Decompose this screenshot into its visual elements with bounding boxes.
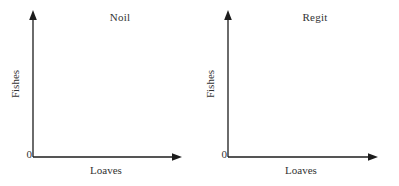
origin-label-noil: 0 bbox=[20, 148, 32, 160]
figure-container: Noil 0 Fishes Loaves Regit 0 Fishes Loav… bbox=[0, 0, 399, 186]
y-axis-arrow-icon bbox=[224, 10, 232, 20]
y-axis-label-noil: Fishes bbox=[9, 56, 21, 112]
x-axis-arrow-icon bbox=[172, 153, 182, 161]
y-axis-label-regit: Fishes bbox=[204, 56, 216, 112]
x-axis-label-regit: Loaves bbox=[245, 164, 357, 177]
chart-panel-noil: Noil 0 Fishes Loaves bbox=[0, 0, 199, 186]
y-axis-arrow-icon bbox=[29, 10, 37, 20]
origin-label-regit: 0 bbox=[215, 148, 227, 160]
x-axis-label-noil: Loaves bbox=[50, 164, 162, 177]
chart-panel-regit: Regit 0 Fishes Loaves bbox=[195, 0, 394, 186]
x-axis-arrow-icon bbox=[368, 153, 378, 161]
